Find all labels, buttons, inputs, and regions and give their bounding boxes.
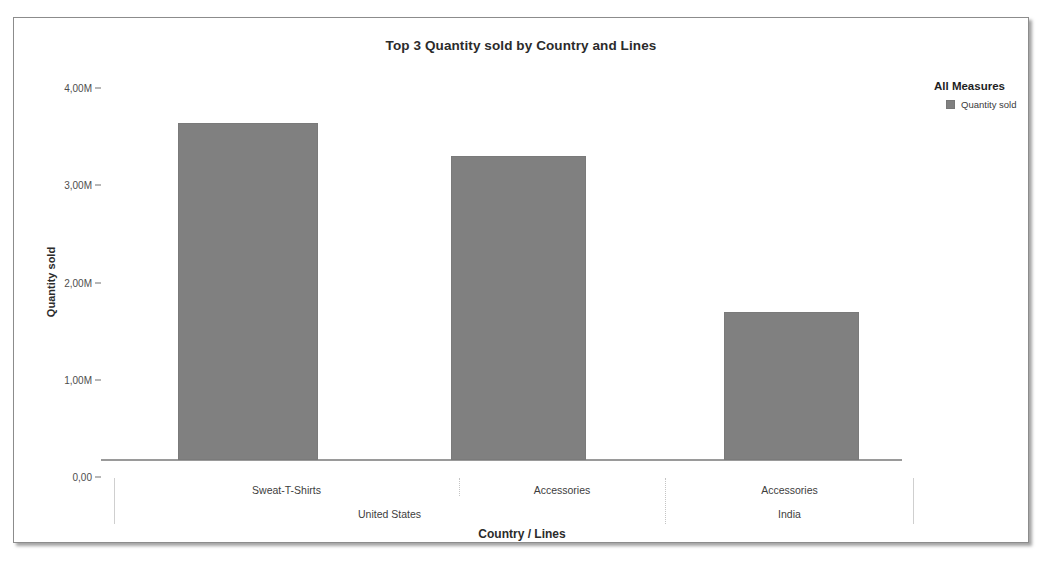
y-axis-tick-label: 0,00 — [34, 472, 92, 483]
x-axis-country-label: United States — [114, 508, 665, 520]
x-axis-line-label: Accessories — [665, 484, 914, 496]
x-axis-line-label: Sweat-T-Shirts — [114, 484, 459, 496]
y-axis-tick-mark — [95, 477, 101, 478]
y-axis-tick-label: 1,00M — [34, 374, 92, 385]
legend: All Measures Quantity sold — [933, 80, 1049, 110]
legend-title: All Measures — [934, 80, 1049, 92]
x-axis-line-label: Accessories — [459, 484, 665, 496]
legend-item[interactable]: Quantity sold — [946, 99, 1049, 110]
plot-area — [101, 71, 901, 460]
x-axis-title: Country / Lines — [14, 527, 1030, 541]
chart-title: Top 3 Quantity sold by Country and Lines — [14, 38, 1028, 53]
bar[interactable] — [724, 312, 859, 460]
y-axis-tick-label: 4,00M — [34, 83, 92, 94]
y-axis-tick-label: 3,00M — [34, 180, 92, 191]
x-axis-category-bands: Sweat-T-ShirtsAccessoriesAccessoriesUnit… — [114, 478, 914, 526]
legend-item-label: Quantity sold — [961, 99, 1016, 110]
legend-items: Quantity sold — [933, 99, 1049, 110]
chart-panel: Top 3 Quantity sold by Country and Lines… — [13, 17, 1029, 543]
screenshot-root: Top 3 Quantity sold by Country and Lines… — [0, 0, 1049, 566]
x-axis-separator — [114, 478, 115, 524]
y-axis-tick-label: 2,00M — [34, 277, 92, 288]
x-axis-separator — [913, 478, 914, 524]
legend-swatch-quantity-sold — [946, 100, 955, 109]
bar[interactable] — [178, 123, 318, 460]
x-axis-country-label: India — [665, 508, 914, 520]
x-axis-separator — [459, 478, 461, 496]
x-axis-separator — [665, 478, 667, 524]
bar[interactable] — [451, 156, 586, 460]
